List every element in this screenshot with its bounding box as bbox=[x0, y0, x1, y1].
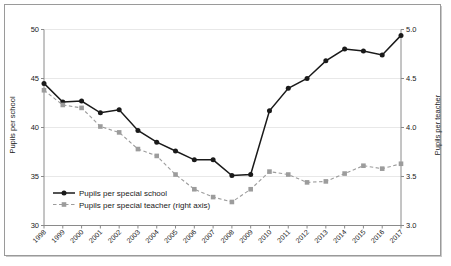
y-tick-label: 30 bbox=[31, 221, 39, 230]
data-point bbox=[248, 172, 253, 177]
data-point bbox=[173, 149, 178, 154]
x-tick-label: 1999 bbox=[50, 228, 66, 244]
x-tick-label: 2005 bbox=[163, 228, 179, 244]
data-point bbox=[380, 52, 385, 57]
data-point bbox=[79, 106, 84, 111]
y-axis-right-label: Pupils per teacher bbox=[433, 94, 442, 155]
y2-tick-label: 4.0 bbox=[406, 123, 416, 132]
data-point bbox=[267, 169, 272, 174]
y2-tick-label: 3.0 bbox=[406, 221, 416, 230]
data-point bbox=[98, 110, 103, 115]
y-tick-label: 50 bbox=[31, 25, 39, 34]
data-point bbox=[380, 166, 385, 171]
y-tick-label: 45 bbox=[31, 74, 39, 83]
y-axis-left-label: Pupils per school bbox=[8, 96, 17, 153]
data-point bbox=[324, 179, 329, 184]
chart-legend[interactable]: Pupils per special schoolPupils per spec… bbox=[53, 189, 211, 210]
data-point bbox=[286, 172, 291, 177]
legend-label[interactable]: Pupils per special school bbox=[79, 189, 167, 198]
y-tick-label: 35 bbox=[31, 172, 39, 181]
x-tick-label: 2011 bbox=[276, 228, 292, 244]
y-axis-left-ticks: 3035404550 bbox=[31, 25, 39, 230]
data-point bbox=[211, 195, 216, 200]
data-point bbox=[229, 173, 234, 178]
series-line bbox=[44, 90, 401, 202]
data-point bbox=[305, 76, 310, 81]
x-tick-label: 2017 bbox=[388, 228, 404, 244]
y-tick-label: 40 bbox=[31, 123, 39, 132]
x-tick-label: 2007 bbox=[200, 228, 216, 244]
x-tick-label: 2013 bbox=[313, 228, 329, 244]
data-point bbox=[136, 147, 141, 152]
x-tick-label: 2003 bbox=[125, 228, 141, 244]
data-point bbox=[361, 163, 366, 168]
data-point bbox=[42, 88, 47, 93]
data-point bbox=[399, 33, 404, 38]
line-chart: 3035404550 3.03.54.04.55.0 1998199920002… bbox=[0, 0, 451, 266]
series-line bbox=[44, 35, 401, 175]
data-point bbox=[135, 128, 140, 133]
y2-tick-label: 4.5 bbox=[406, 74, 416, 83]
data-point bbox=[323, 58, 328, 63]
legend-label[interactable]: Pupils per special teacher (right axis) bbox=[79, 201, 211, 210]
x-tick-label: 2000 bbox=[69, 228, 85, 244]
data-point bbox=[117, 130, 122, 135]
data-point bbox=[192, 157, 197, 162]
y-axis-right-ticks: 3.03.54.04.55.0 bbox=[406, 25, 416, 230]
data-point bbox=[173, 172, 178, 177]
y2-tick-label: 5.0 bbox=[406, 25, 416, 34]
data-point bbox=[267, 108, 272, 113]
data-point bbox=[60, 103, 65, 108]
data-point bbox=[79, 99, 84, 104]
legend-marker bbox=[62, 202, 67, 207]
x-axis-ticks: 1998199920002001200220032004200520062007… bbox=[31, 228, 404, 244]
x-tick-label: 2009 bbox=[238, 228, 254, 244]
data-point bbox=[42, 81, 47, 86]
data-point bbox=[154, 140, 159, 145]
x-tick-label: 2015 bbox=[351, 228, 367, 244]
x-tick-label: 2010 bbox=[257, 228, 273, 244]
data-point bbox=[230, 200, 235, 205]
data-point bbox=[117, 107, 122, 112]
legend-marker bbox=[62, 191, 67, 196]
x-tick-label: 2006 bbox=[182, 228, 198, 244]
x-tick-label: 2016 bbox=[369, 228, 385, 244]
data-series bbox=[42, 33, 404, 204]
data-point bbox=[211, 157, 216, 162]
x-tick-label: 2012 bbox=[294, 228, 310, 244]
x-tick-label: 2001 bbox=[88, 228, 104, 244]
x-tick-label: 2014 bbox=[332, 228, 348, 244]
data-point bbox=[286, 86, 291, 91]
data-point bbox=[192, 187, 197, 192]
x-tick-label: 1998 bbox=[31, 228, 47, 244]
data-point bbox=[154, 154, 159, 159]
axis-lines bbox=[41, 30, 404, 229]
x-tick-label: 2004 bbox=[144, 228, 160, 244]
data-point bbox=[248, 187, 253, 192]
data-point bbox=[399, 161, 404, 166]
data-point bbox=[98, 124, 103, 129]
data-point bbox=[361, 49, 366, 54]
data-point bbox=[305, 180, 310, 185]
data-point bbox=[342, 47, 347, 52]
y2-tick-label: 3.5 bbox=[406, 172, 416, 181]
x-tick-label: 2002 bbox=[106, 228, 122, 244]
x-tick-label: 2008 bbox=[219, 228, 235, 244]
data-point bbox=[342, 171, 347, 176]
